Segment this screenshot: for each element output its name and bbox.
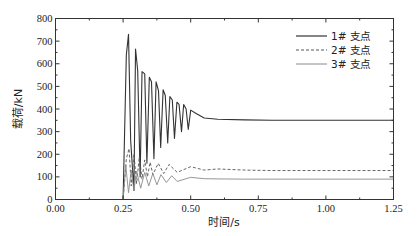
y-tick-label: 300 — [37, 126, 53, 137]
legend-label-2: 2# 支点 — [331, 44, 370, 56]
load-time-chart: 0.000.250.500.751.001.25 010020030040050… — [0, 0, 419, 236]
x-tick-label: 0.75 — [249, 203, 267, 214]
x-tick-label: 1.25 — [384, 203, 402, 214]
y-tick-label: 600 — [37, 58, 53, 69]
legend: 1# 支点 2# 支点 3# 支点 — [296, 30, 370, 70]
y-tick-label: 200 — [37, 149, 53, 160]
x-axis-title: 时间/s — [208, 216, 240, 229]
x-tick-label: 0.50 — [182, 203, 200, 214]
legend-label-1: 1# 支点 — [331, 30, 370, 42]
y-tick-label: 400 — [37, 104, 53, 115]
x-tick-label: 1.00 — [317, 203, 335, 214]
y-tick-label: 0 — [47, 194, 52, 205]
y-tick-label: 700 — [37, 36, 53, 47]
series-line-2 — [56, 149, 394, 200]
x-tick-label: 0.25 — [114, 203, 132, 214]
legend-label-3: 3# 支点 — [331, 58, 370, 70]
y-tick-label: 100 — [37, 171, 53, 182]
y-tick-label: 500 — [37, 81, 53, 92]
y-axis-title: 载荷/kN — [12, 89, 25, 129]
y-tick-label: 800 — [37, 13, 53, 24]
